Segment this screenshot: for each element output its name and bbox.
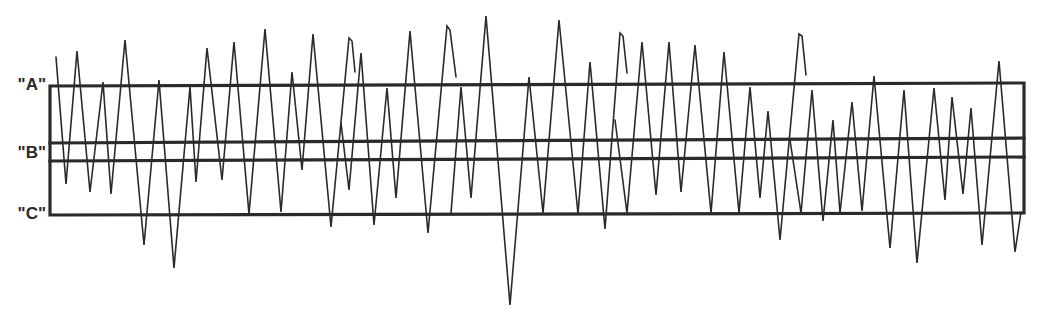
- waveform-stroke: [615, 34, 806, 240]
- waveform-diagram: [0, 0, 1043, 323]
- label-c: "C": [0, 205, 46, 222]
- line-b-upper: [50, 138, 1024, 143]
- waveform-stroke: [56, 29, 355, 268]
- label-a: "A": [0, 76, 46, 93]
- waveform-stroke: [341, 26, 456, 233]
- label-b: "B": [0, 144, 46, 161]
- waveform-stroke: [790, 61, 1021, 263]
